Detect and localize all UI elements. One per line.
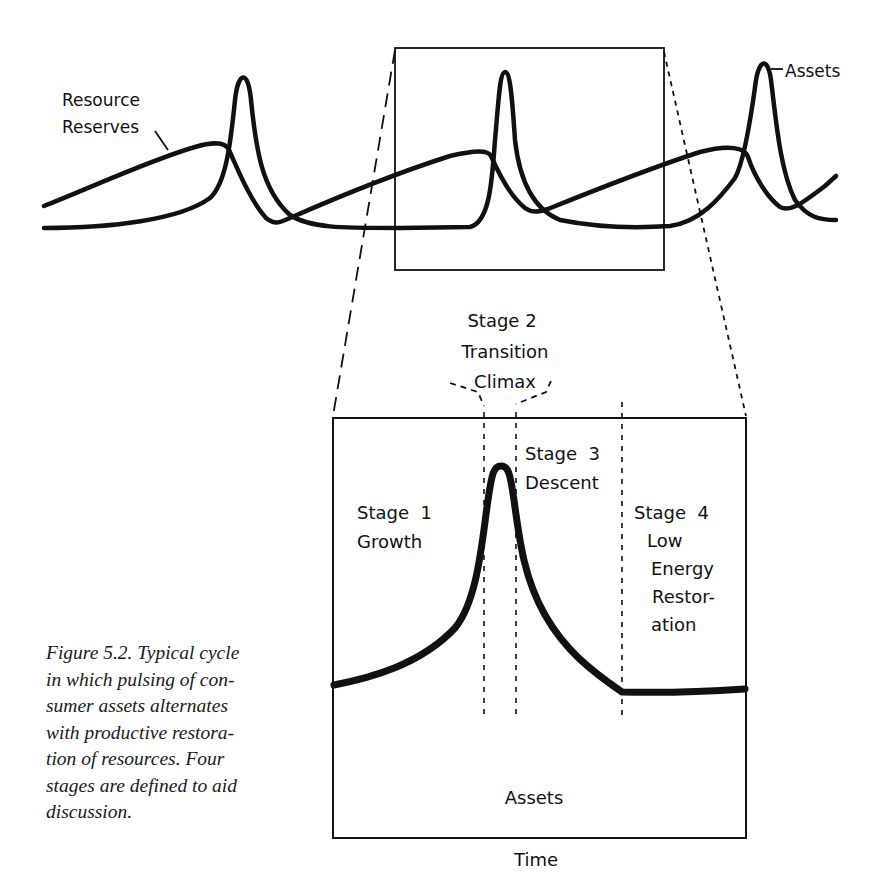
- assets-label: Assets: [785, 61, 840, 81]
- caption-line: sumer assets alternates: [46, 693, 278, 720]
- caption-line: with productive restora-: [46, 720, 278, 747]
- caption-line: Figure 5.2. Typical cycle: [46, 640, 278, 667]
- resource-reserves-label-line1: Resource: [62, 90, 140, 110]
- stage3-name: Descent: [525, 472, 599, 493]
- caption-line: in which pulsing of con-: [46, 667, 278, 694]
- stage1-name: Growth: [357, 531, 422, 552]
- figure-caption: Figure 5.2. Typical cycle in which pulsi…: [46, 640, 278, 826]
- stage4-title: Stage 4: [634, 502, 709, 523]
- assets-curve: [44, 64, 836, 229]
- zoom-connector-left: [333, 50, 395, 416]
- stage4-restor: Restor-: [652, 586, 715, 607]
- caption-line: discussion.: [46, 799, 278, 826]
- assets-pulse-curve: [334, 466, 745, 692]
- zoom-connector-right: [664, 52, 746, 416]
- y-axis-label-assets: Assets: [505, 787, 564, 808]
- stage2-transition: Transition: [460, 341, 548, 362]
- stage2-climax: Climax: [474, 371, 536, 392]
- caption-line: stages are defined to aid: [46, 773, 278, 800]
- stage4-ation: ation: [651, 614, 697, 635]
- stage3-title: Stage 3: [525, 443, 600, 464]
- stage4-energy: Energy: [651, 558, 714, 579]
- top-panel: Resource Reserves Assets: [44, 48, 840, 270]
- resource-leader-line: [155, 131, 168, 150]
- x-axis-label-time: Time: [513, 849, 558, 870]
- detail-panel: Stage 2 Transition Climax Stage 1 Growth…: [333, 310, 746, 870]
- resource-reserves-curve: [44, 143, 836, 222]
- stage4-low: Low: [647, 530, 682, 551]
- stage1-title: Stage 1: [357, 502, 432, 523]
- resource-reserves-label-line2: Reserves: [62, 117, 139, 137]
- caption-line: tion of resources. Four: [46, 746, 278, 773]
- stage2-title: Stage 2: [467, 310, 536, 331]
